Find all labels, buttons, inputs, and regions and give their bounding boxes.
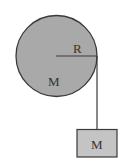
pulley-diagram: R M M xyxy=(0,0,127,167)
radius-label: R xyxy=(73,41,82,56)
block-mass-label: M xyxy=(91,137,103,152)
pulley-mass-label: M xyxy=(48,74,60,89)
